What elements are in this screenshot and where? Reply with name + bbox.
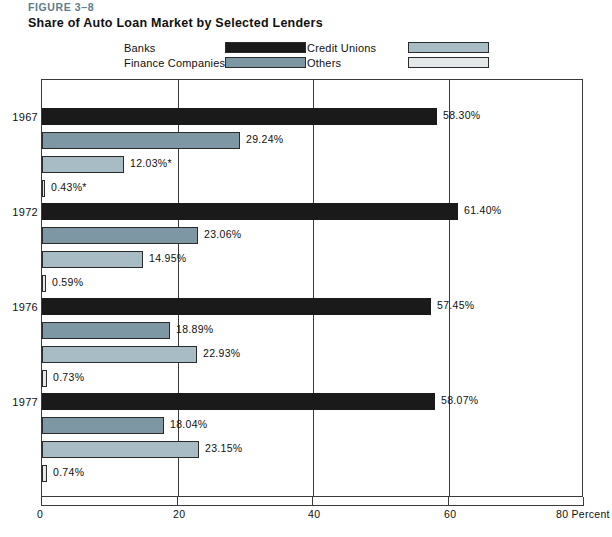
tick-mark-20 (177, 497, 178, 506)
chart-legend: Banks Finance Companies Credit Unions Ot… (124, 42, 464, 72)
tick-label-20: 20 (173, 508, 185, 520)
figure-number: FIGURE 3–8 (28, 1, 323, 14)
tick-mark-80 (583, 497, 584, 506)
bar-row: 0.59% (42, 275, 584, 292)
bar-row: 14.95% (42, 251, 584, 268)
legend-entry-credit-unions: Credit Unions (307, 42, 376, 54)
bar-others-1976 (42, 370, 47, 387)
bar-others-1972 (42, 275, 46, 292)
bar-row: 18.04% (42, 417, 584, 434)
bar-row: 23.06% (42, 227, 584, 244)
year-label-1976: 1976 (8, 301, 38, 313)
bar-value-label: 58.30% (443, 109, 480, 121)
year-label-1977: 1977 (8, 396, 38, 408)
bar-banks-1967 (42, 108, 437, 125)
tick-mark-40 (312, 497, 313, 506)
bar-credit-unions-1976 (42, 346, 197, 363)
bar-finance-companies-1976 (42, 322, 170, 339)
bar-others-1967 (42, 180, 45, 197)
bar-row: 58.07% (42, 393, 584, 410)
figure-title: Share of Auto Loan Market by Selected Le… (28, 15, 323, 31)
bar-value-label: 14.95% (149, 252, 186, 264)
x-axis-unit-label: 80 Percent (556, 508, 610, 520)
legend-swatch-finance-companies (225, 57, 306, 68)
bar-row: 0.74% (42, 465, 584, 482)
tick-label-60: 60 (444, 508, 456, 520)
tick-label-40: 40 (308, 508, 320, 520)
legend-swatch-others (408, 57, 489, 68)
bar-credit-unions-1967 (42, 156, 124, 173)
tick-label-0: 0 (37, 508, 43, 520)
legend-entry-banks: Banks (124, 42, 156, 54)
legend-label-credit-unions: Credit Unions (307, 42, 376, 54)
bar-row: 22.93% (42, 346, 584, 363)
bar-row: 0.43%* (42, 180, 584, 197)
bar-finance-companies-1977 (42, 417, 164, 434)
legend-entry-others: Others (307, 57, 341, 69)
bar-value-label: 23.06% (204, 228, 241, 240)
bar-value-label: 12.03%* (130, 157, 172, 169)
legend-swatch-credit-unions (408, 42, 489, 53)
bar-row: 58.30% (42, 108, 584, 125)
bar-value-label: 61.40% (464, 204, 501, 216)
legend-label-others: Others (307, 57, 341, 69)
bar-row: 18.89% (42, 322, 584, 339)
tick-mark-60 (448, 497, 449, 506)
legend-entry-finance-companies: Finance Companies (124, 57, 225, 69)
bar-value-label: 57.45% (437, 299, 474, 311)
bar-row: 12.03%* (42, 156, 584, 173)
bar-banks-1976 (42, 298, 431, 315)
bar-value-label: 22.93% (203, 347, 240, 359)
bar-value-label: 29.24% (246, 133, 283, 145)
bar-banks-1977 (42, 393, 435, 410)
bar-value-label: 18.89% (176, 323, 213, 335)
bar-row: 29.24% (42, 132, 584, 149)
legend-swatch-banks (225, 42, 306, 53)
bar-row: 23.15% (42, 441, 584, 458)
bar-value-label: 0.74% (53, 466, 84, 478)
bar-value-label: 0.43%* (51, 181, 87, 193)
bar-credit-unions-1972 (42, 251, 143, 268)
bar-banks-1972 (42, 203, 458, 220)
bar-value-label: 18.04% (170, 418, 207, 430)
bar-finance-companies-1967 (42, 132, 240, 149)
bar-value-label: 23.15% (205, 442, 242, 454)
bar-row: 57.45% (42, 298, 584, 315)
legend-label-banks: Banks (124, 42, 156, 54)
legend-label-finance-companies: Finance Companies (124, 57, 225, 69)
bars-layer: 58.30%29.24%12.03%*0.43%*61.40%23.06%14.… (41, 79, 583, 497)
tick-mark-0 (41, 497, 42, 506)
bar-row: 61.40% (42, 203, 584, 220)
bar-credit-unions-1977 (42, 441, 199, 458)
bar-finance-companies-1972 (42, 227, 198, 244)
figure-header: FIGURE 3–8 Share of Auto Loan Market by … (28, 1, 323, 31)
year-label-1972: 1972 (8, 206, 38, 218)
year-label-1967: 1967 (8, 111, 38, 123)
bar-others-1977 (42, 465, 47, 482)
bar-row: 0.73% (42, 370, 584, 387)
bar-value-label: 58.07% (441, 394, 478, 406)
bar-value-label: 0.59% (52, 276, 83, 288)
bar-value-label: 0.73% (53, 371, 84, 383)
